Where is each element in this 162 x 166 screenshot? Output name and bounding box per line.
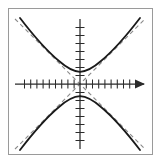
x-axis-arrowhead-icon bbox=[135, 80, 145, 89]
hyperbola-plot bbox=[9, 9, 152, 154]
axes-group bbox=[15, 19, 144, 149]
figure-accessible-title: Hyperbola with vertical transverse axis … bbox=[0, 0, 1, 1]
figure-equation: y^2/a^2 - x^2/b^2 = 1 bbox=[0, 0, 1, 1]
figure-frame bbox=[8, 8, 153, 155]
figure-root: Hyperbola with vertical transverse axis … bbox=[0, 0, 162, 166]
